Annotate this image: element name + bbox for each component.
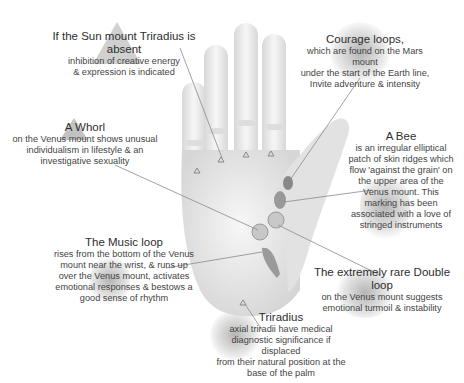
annotation-title: If the Sun mount Triradius is absent (44, 30, 204, 56)
annotation-double-loop: The extremely rare Double loop on the Ve… (302, 266, 462, 314)
double-loop-marking (268, 212, 284, 228)
annotation-triradius: Triradius axial triradii have medical di… (216, 311, 346, 379)
annotation-title: Courage loops, (300, 33, 430, 46)
annotation-title: Triradius (216, 311, 346, 324)
bee-marking (274, 191, 286, 209)
whorl-marking (252, 224, 268, 240)
annotation-courage-loops: Courage loops, which are found on the Ma… (300, 33, 430, 90)
annotation-music-loop: The Music loop rises from the bottom of … (54, 236, 194, 304)
annotation-bee: A Bee is an irregular elliptical patch o… (345, 130, 457, 231)
annotation-title: A Whorl (10, 121, 160, 134)
annotation-whorl: A Whorl on the Venus mount shows unusual… (10, 121, 160, 167)
annotation-title: A Bee (345, 130, 457, 143)
palmistry-diagram: If the Sun mount Triradius is absent inh… (0, 0, 464, 383)
annotation-title: The extremely rare Double loop (302, 266, 462, 292)
annotation-sun-triradius: If the Sun mount Triradius is absent inh… (44, 30, 204, 78)
annotation-title: The Music loop (54, 236, 194, 249)
palm (181, 150, 300, 316)
